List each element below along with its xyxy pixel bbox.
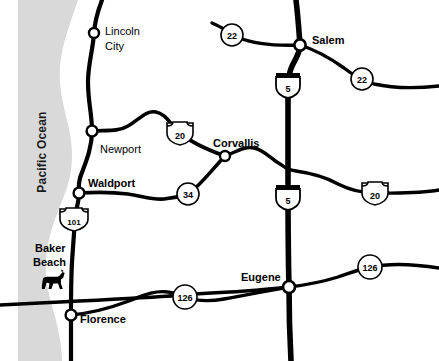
ocean-label: Pacific Ocean — [35, 111, 49, 192]
route-number-or-22-east: 22 — [357, 75, 367, 85]
route-number-us-101: 101 — [67, 218, 81, 227]
route-marker-i-5-north[interactable]: 5 — [276, 73, 300, 98]
route-marker-or-22-east[interactable]: 22 — [351, 68, 373, 90]
city-label-waldport: Waldport — [88, 177, 136, 189]
landmark-label-baker-beach-line1: Baker — [35, 242, 66, 254]
route-marker-or-126-east[interactable]: 126 — [358, 255, 382, 279]
route-number-or-126-west: 126 — [177, 293, 192, 303]
city-node-newport[interactable] — [87, 126, 98, 137]
city-node-corvallis[interactable] — [220, 151, 230, 161]
road-map: Pacific Ocean — [0, 0, 439, 361]
city-label-newport: Newport — [100, 143, 141, 155]
city-label-salem: Salem — [312, 34, 345, 46]
highway-i5 — [288, 0, 300, 361]
route-number-i-5-south: 5 — [285, 196, 290, 206]
route-number-us-20-coast: 20 — [175, 131, 185, 141]
city-node-salem[interactable] — [294, 39, 305, 50]
route-marker-i-5-south[interactable]: 5 — [276, 185, 300, 210]
route-marker-us-101[interactable]: 101 — [60, 208, 88, 231]
city-node-eugene[interactable] — [283, 281, 295, 293]
route-marker-us-20-coast[interactable]: 20 — [167, 122, 193, 145]
map-canvas: Pacific Ocean — [0, 0, 439, 361]
route-number-or-126-east: 126 — [362, 263, 377, 273]
route-number-us-20-east: 20 — [370, 191, 380, 201]
city-label-lincoln-city-line2: City — [105, 40, 124, 52]
route-marker-or-22-west[interactable]: 22 — [221, 24, 243, 46]
route-marker-or-34[interactable]: 34 — [177, 183, 199, 205]
city-label-lincoln-city-line1: Lincoln — [105, 25, 140, 37]
route-marker-or-126-west[interactable]: 126 — [173, 285, 197, 309]
city-label-corvallis: Corvallis — [213, 137, 259, 149]
city-node-lincoln-city[interactable] — [89, 28, 99, 38]
highway-us20-east — [225, 148, 439, 194]
city-label-eugene: Eugene — [241, 271, 281, 283]
route-number-or-22-west: 22 — [227, 31, 237, 41]
route-number-i-5-north: 5 — [285, 84, 290, 94]
route-number-or-34: 34 — [183, 190, 193, 200]
landmark-label-baker-beach-line2: Beach — [33, 256, 66, 268]
city-node-waldport[interactable] — [74, 188, 85, 199]
city-node-florence[interactable] — [66, 310, 77, 321]
city-label-florence: Florence — [80, 313, 126, 325]
route-marker-us-20-east[interactable]: 20 — [362, 182, 388, 205]
